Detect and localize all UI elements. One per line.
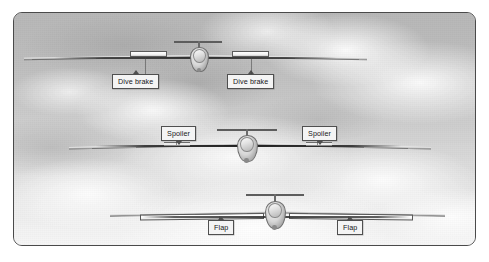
callout-label: Spoiler (161, 126, 196, 141)
nose-wheel (272, 225, 277, 230)
callout-dive-brake-right[interactable]: Dive brake (227, 74, 274, 89)
leader-line-flap-right (348, 216, 349, 220)
nose-wheel (244, 158, 249, 163)
callout-dive-brake-left[interactable]: Dive brake (112, 74, 159, 89)
callout-spoiler-left[interactable]: Spoiler (161, 126, 196, 141)
callout-label: Spoiler (302, 126, 337, 141)
leader-line-flap-left (219, 216, 220, 220)
glider-flap (14, 185, 476, 229)
dive-brake-panel-left (130, 51, 167, 58)
callout-flap-right[interactable]: Flap (337, 220, 363, 235)
glider-spoiler (14, 121, 476, 163)
leader-line-dive-brake-right (251, 57, 252, 74)
callout-pointer-icon (133, 70, 139, 74)
leader-line-spoiler-left (176, 141, 177, 145)
canopy (193, 49, 206, 63)
canopy (268, 203, 282, 218)
callout-flap-left[interactable]: Flap (208, 220, 234, 235)
canopy (240, 137, 254, 152)
callout-spoiler-right[interactable]: Spoiler (302, 126, 337, 141)
leader-line-dive-brake-left (145, 57, 146, 74)
glider-dive-brake (14, 35, 476, 75)
callout-label: Flap (208, 220, 234, 235)
nose-wheel (197, 68, 201, 72)
callout-label: Dive brake (112, 74, 159, 89)
leader-line-spoiler-right (317, 141, 318, 145)
glider-devices-figure: Dive brake Dive brake Spoiler Spoiler (13, 12, 476, 246)
callout-label: Flap (337, 220, 363, 235)
callout-label: Dive brake (227, 74, 274, 89)
